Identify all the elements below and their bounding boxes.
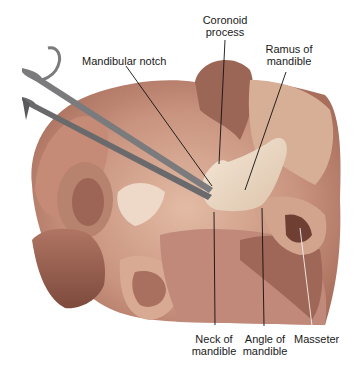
label-coronoid-process: Coronoid process	[202, 14, 248, 38]
label-text: mandible	[190, 345, 238, 357]
dissection-figure: Mandibular notch Coronoid process Ramus …	[0, 0, 360, 365]
label-text: process	[202, 26, 248, 38]
label-text: mandible	[263, 55, 315, 67]
label-text: Coronoid	[202, 14, 248, 26]
specimen-tissue	[31, 60, 340, 325]
label-text: Neck of	[190, 333, 238, 345]
label-neck-of-mandible: Neck of mandible	[190, 333, 238, 357]
label-mandibular-notch: Mandibular notch	[82, 55, 166, 67]
label-angle-of-mandible: Angle of mandible	[240, 333, 290, 357]
label-text: Angle of	[240, 333, 290, 345]
label-text: Mandibular notch	[82, 55, 166, 67]
label-ramus-of-mandible: Ramus of mandible	[263, 43, 315, 67]
label-text: Masseter	[294, 333, 339, 345]
label-text: mandible	[240, 345, 290, 357]
label-masseter: Masseter	[294, 333, 339, 345]
label-text: Ramus of	[263, 43, 315, 55]
